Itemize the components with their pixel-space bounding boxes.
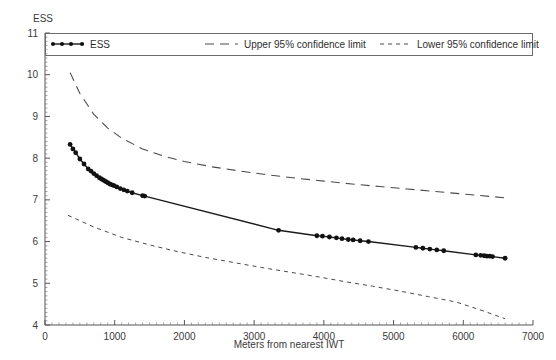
- data-point-marker: [427, 247, 432, 252]
- data-point-marker: [73, 150, 78, 155]
- data-point-marker: [503, 256, 508, 261]
- y-tick-label: 11: [28, 28, 39, 39]
- legend-entry-upper-cl: Upper 95% confidence limit: [205, 39, 366, 50]
- data-point-marker: [366, 239, 371, 244]
- plot-frame: [45, 33, 533, 325]
- data-point-marker: [82, 162, 87, 167]
- legend-entry-lower-cl: Lower 95% confidence limit: [380, 39, 539, 50]
- legend-label-ess: ESS: [90, 39, 110, 50]
- legend-marker-dot: [60, 42, 64, 46]
- y-tick-label: 6: [32, 236, 38, 247]
- x-tick-label: 7000: [522, 331, 545, 342]
- x-tick-label: 2000: [173, 331, 196, 342]
- legend-marker-dot: [69, 42, 73, 46]
- data-point-marker: [346, 237, 351, 242]
- data-point-marker: [125, 189, 130, 194]
- y-tick-label: 5: [32, 278, 38, 289]
- chart-legend: ESS Upper 95% confidence limit Lower 95%…: [46, 34, 539, 56]
- data-point-marker: [68, 142, 73, 147]
- data-point-marker: [413, 245, 418, 250]
- legend-label-lower-cl: Lower 95% confidence limit: [417, 39, 539, 50]
- series-upper-95-confidence-limit: [70, 73, 505, 198]
- data-point-marker: [358, 238, 363, 243]
- data-point-marker: [441, 248, 446, 253]
- x-tick-label: 6000: [452, 331, 475, 342]
- data-point-marker: [420, 246, 425, 251]
- data-series-layer: [68, 73, 508, 319]
- data-point-marker: [490, 254, 495, 259]
- data-point-marker: [434, 248, 439, 253]
- data-point-marker: [473, 253, 478, 258]
- x-tick-label: 0: [42, 331, 48, 342]
- data-point-marker: [334, 235, 339, 240]
- data-point-marker: [351, 238, 356, 243]
- x-tick-label: 5000: [382, 331, 405, 342]
- data-point-marker: [327, 235, 332, 240]
- y-tick-label: 4: [32, 320, 38, 331]
- series-ess: [68, 142, 508, 261]
- data-point-marker: [320, 234, 325, 239]
- chart-figure: ESS Meters from nearest IWT 010002000300…: [0, 0, 556, 360]
- data-point-marker: [77, 157, 82, 162]
- x-tick-label: 1000: [104, 331, 127, 342]
- x-tick-label: 4000: [313, 331, 336, 342]
- data-point-marker: [314, 233, 319, 238]
- x-tick-label: 3000: [243, 331, 266, 342]
- axis-titles: ESS Meters from nearest IWT: [33, 13, 344, 350]
- y-tick-label: 10: [27, 69, 39, 80]
- y-axis-title: ESS: [33, 13, 53, 24]
- legend-marker-dot: [51, 42, 55, 46]
- series-path: [70, 73, 505, 198]
- data-point-marker: [340, 236, 345, 241]
- data-point-marker: [130, 190, 135, 195]
- y-tick-label: 9: [32, 111, 38, 122]
- y-axis-ticks: 4567891011: [27, 28, 50, 331]
- legend-label-upper-cl: Upper 95% confidence limit: [244, 39, 366, 50]
- legend-marker-dot: [80, 42, 84, 46]
- data-point-marker: [276, 228, 281, 233]
- legend-entry-ess: ESS: [51, 39, 110, 50]
- y-tick-label: 8: [32, 153, 38, 164]
- data-point-marker: [142, 194, 147, 199]
- ess-distance-line-chart: ESS Meters from nearest IWT 010002000300…: [0, 0, 556, 360]
- y-tick-label: 7: [32, 194, 38, 205]
